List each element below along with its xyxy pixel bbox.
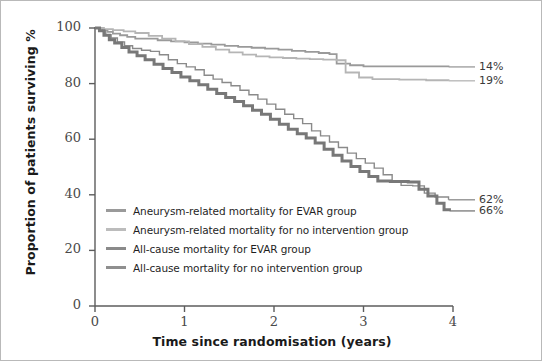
series-end-label: 66% xyxy=(479,204,503,217)
legend-item: All-cause mortality for EVAR group xyxy=(106,239,406,258)
figure-frame: Proportion of patients surviving % Time … xyxy=(0,0,542,361)
legend-item-label: Aneurysm-related mortality for no interv… xyxy=(133,224,408,236)
legend-line-swatch xyxy=(106,266,126,269)
x-tick-label: 3 xyxy=(354,314,374,329)
x-axis-title: Time since randomisation (years) xyxy=(1,334,543,349)
y-tick-label: 100 xyxy=(45,19,81,34)
chart-curves xyxy=(95,28,449,211)
legend-item: Aneurysm-related mortality for EVAR grou… xyxy=(106,201,406,220)
x-tick-label: 4 xyxy=(443,314,463,329)
legend-line-swatch xyxy=(106,209,126,212)
y-tick-label: 0 xyxy=(45,297,81,312)
series-end-label: 14% xyxy=(479,60,503,73)
y-tick-label: 40 xyxy=(45,186,81,201)
x-tick-label: 0 xyxy=(85,314,105,329)
legend-item-label: All-cause mortality for no intervention … xyxy=(133,262,362,274)
y-tick-label: 20 xyxy=(45,241,81,256)
series-end-label: 19% xyxy=(479,74,503,87)
x-tick-label: 2 xyxy=(264,314,284,329)
end-label-connectors xyxy=(449,67,475,211)
chart-legend: Aneurysm-related mortality for EVAR grou… xyxy=(106,201,406,277)
legend-item-label: All-cause mortality for EVAR group xyxy=(133,243,311,255)
legend-line-swatch xyxy=(106,228,126,231)
y-axis-title: Proportion of patients surviving % xyxy=(23,46,38,276)
y-tick-label: 80 xyxy=(45,75,81,90)
legend-line-swatch xyxy=(106,247,126,250)
legend-item: All-cause mortality for no intervention … xyxy=(106,258,406,277)
y-tick-label: 60 xyxy=(45,130,81,145)
legend-item: Aneurysm-related mortality for no interv… xyxy=(106,220,406,239)
x-tick-label: 1 xyxy=(175,314,195,329)
legend-item-label: Aneurysm-related mortality for EVAR grou… xyxy=(133,205,357,217)
survival-chart-canvas xyxy=(1,1,543,362)
